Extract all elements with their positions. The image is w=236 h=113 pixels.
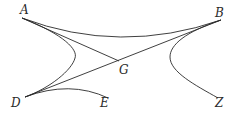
left-hyperbola-branch — [22, 18, 75, 97]
label-E: E — [99, 96, 109, 110]
curve-A-B — [22, 18, 221, 37]
label-A: A — [19, 3, 29, 17]
label-B: B — [214, 6, 224, 20]
curve-D-E — [25, 89, 108, 98]
label-G: G — [119, 63, 129, 77]
diagram-svg: A B G D E Z — [0, 0, 236, 113]
segment-D-B — [25, 20, 221, 97]
label-Z: Z — [214, 96, 224, 110]
diagram-canvas: A B G D E Z — [0, 0, 236, 113]
label-D: D — [10, 96, 21, 110]
